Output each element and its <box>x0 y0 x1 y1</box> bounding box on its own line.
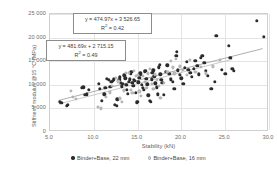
y-axis-tick-label: 20 000 <box>28 34 46 40</box>
gridline-vertical <box>269 14 270 130</box>
legend-entry[interactable]: Binder+Base, 22 mm <box>71 155 129 161</box>
r-squared-16mm: R2 = 0.49 <box>50 50 122 59</box>
r-squared-22mm: R2 = 0.42 <box>77 23 148 32</box>
y-axis-tick-label: 15 000 <box>28 57 46 63</box>
chart-legend: Binder+Base, 22 mmBinder+Base, 16 mm <box>0 155 277 161</box>
y-axis-tick-label: 5 000 <box>32 104 47 110</box>
x-axis-tick-label: 5.0 <box>45 134 53 140</box>
equation-text-22mm: y = 474.97x + 3 526.65 <box>77 16 148 23</box>
legend-marker-icon <box>71 156 74 159</box>
x-axis-tick-label: 20.0 <box>175 134 186 140</box>
trendline-equation-22mm: y = 474.97x + 3 526.65 R2 = 0.42 <box>73 13 152 34</box>
r-squared-value-16mm: = 0.49 <box>81 52 98 58</box>
y-axis-tick-label: 10 000 <box>28 81 46 87</box>
x-axis-tick-label: 30.0 <box>263 134 274 140</box>
x-axis-title: Stability (kN) <box>49 143 268 149</box>
scatter-chart: Stiffness modulus @15 °C (MPa) 05 00010 … <box>0 0 277 171</box>
legend-marker-icon <box>148 156 151 159</box>
y-axis-tick-label: 25 000 <box>28 10 46 16</box>
r-squared-value-22mm: = 0.42 <box>107 25 124 31</box>
x-axis-tick-label: 25.0 <box>219 134 230 140</box>
legend-label: Binder+Base, 22 mm <box>77 155 129 161</box>
trendline-equation-16mm: y = 481.69x + 2 715.15 R2 = 0.49 <box>46 40 126 61</box>
x-axis-tick-label: 15.0 <box>131 134 142 140</box>
equation-text-16mm: y = 481.69x + 2 715.15 <box>50 43 122 50</box>
x-axis-tick-label: 10.0 <box>87 134 98 140</box>
legend-entry[interactable]: Binder+Base, 16 mm <box>148 155 206 161</box>
legend-label: Binder+Base, 16 mm <box>153 155 205 161</box>
